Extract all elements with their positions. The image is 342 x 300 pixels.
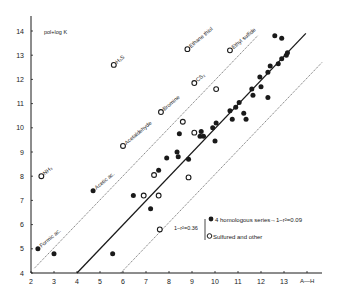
point-label: Acetic ac.	[93, 170, 115, 190]
open-point	[141, 193, 146, 198]
x-tick-label: 9	[190, 278, 194, 285]
filled-point	[272, 33, 277, 38]
filled-point	[177, 131, 182, 136]
legend-filled-marker	[209, 217, 214, 222]
y-tick-label: 14	[16, 28, 24, 35]
filled-point	[199, 129, 204, 134]
x-axis-label: A—H	[300, 278, 314, 284]
filled-point	[131, 193, 136, 198]
y-axis-label: pol+log K	[44, 29, 67, 35]
open-point	[180, 119, 185, 124]
y-tick-label: 11	[17, 100, 24, 107]
y-tick-label: 5	[20, 245, 24, 252]
filled-point	[285, 50, 290, 55]
point-label: Ethane thiol	[188, 26, 214, 49]
band-label: 1−r²=0.36	[174, 225, 198, 231]
x-tick-label: 8	[167, 278, 171, 285]
filled-point	[265, 95, 270, 100]
filled-point	[259, 84, 264, 89]
filled-point	[268, 64, 273, 69]
open-point	[157, 227, 162, 232]
point-label: CS₂	[195, 72, 206, 83]
filled-point	[176, 154, 181, 159]
filled-point	[279, 36, 284, 41]
open-point	[186, 175, 191, 180]
filled-point	[52, 251, 57, 256]
axes: 45678910111213142345678910111213	[16, 16, 322, 285]
x-tick-label: 3	[52, 278, 56, 285]
filled-point	[213, 139, 218, 144]
point-labels: Formic ac.Acetic ac.NH₃H₂SAcetaldehydeBr…	[38, 26, 257, 249]
x-tick-label: 5	[98, 278, 102, 285]
legend-open-marker	[207, 234, 212, 239]
scatter-chart: 45678910111213142345678910111213 Formic …	[0, 0, 342, 300]
filled-point	[110, 251, 115, 256]
y-tick-label: 4	[20, 270, 24, 277]
filled-point	[257, 74, 262, 79]
filled-point	[210, 125, 215, 130]
y-tick-label: 9	[20, 149, 24, 156]
x-tick-label: 11	[234, 278, 241, 285]
filled-point	[237, 100, 242, 105]
filled-point	[214, 120, 219, 125]
y-tick-label: 6	[20, 221, 24, 228]
data-points	[35, 33, 290, 256]
y-tick-label: 13	[16, 52, 24, 59]
open-point	[156, 193, 161, 198]
filled-point	[156, 168, 161, 173]
filled-point	[201, 134, 206, 139]
filled-point	[227, 108, 232, 113]
legend-filled-label: 4 homologous series	[215, 217, 270, 223]
x-tick-label: 6	[121, 278, 125, 285]
filled-point	[265, 70, 270, 75]
filled-point	[279, 56, 284, 61]
filled-point	[186, 157, 191, 162]
x-tick-label: 7	[144, 278, 148, 285]
legend-open-label: Sulfured and other	[213, 234, 262, 240]
regression-line	[77, 33, 306, 273]
point-label: NH₃	[42, 165, 54, 176]
y-tick-label: 10	[16, 124, 24, 131]
filled-point	[241, 111, 246, 116]
x-tick-label: 4	[75, 278, 79, 285]
y-tick-label: 7	[20, 197, 24, 204]
filled-point	[148, 206, 153, 211]
point-label: Formic ac.	[38, 227, 62, 248]
filled-point	[249, 87, 254, 92]
x-tick-label: 12	[257, 278, 265, 285]
point-label: H₂S	[114, 54, 126, 65]
filled-point	[175, 150, 180, 155]
legend-filled-note: →1−r²=0.09	[270, 217, 303, 223]
filled-point	[244, 117, 249, 122]
x-tick-label: 2	[29, 278, 33, 285]
open-point	[214, 87, 219, 92]
point-label: Acetaldehyde	[123, 120, 152, 146]
lower-band-line	[121, 62, 322, 273]
open-point	[152, 173, 157, 178]
y-tick-label: 12	[16, 76, 24, 83]
filled-point	[276, 61, 281, 66]
open-point	[192, 130, 197, 135]
filled-point	[230, 117, 235, 122]
x-tick-label: 13	[280, 278, 288, 285]
point-label: Bromine	[161, 94, 181, 112]
filled-point	[164, 156, 169, 161]
x-tick-label: 10	[211, 278, 219, 285]
filled-point	[233, 105, 238, 110]
y-tick-label: 8	[20, 173, 24, 180]
point-label: Ethyl sulfide	[230, 26, 257, 50]
filled-point	[250, 93, 255, 98]
